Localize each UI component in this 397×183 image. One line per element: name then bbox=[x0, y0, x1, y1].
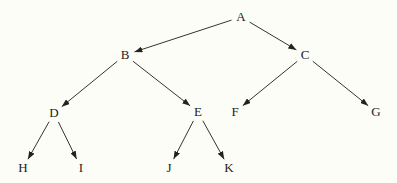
edge-d-i bbox=[58, 122, 76, 159]
node-e: E bbox=[194, 104, 202, 119]
node-h: H bbox=[18, 160, 27, 175]
edge-b-e bbox=[133, 61, 190, 106]
node-c: C bbox=[301, 47, 310, 62]
node-a: A bbox=[236, 9, 246, 24]
edge-e-k bbox=[203, 121, 224, 160]
node-i: I bbox=[79, 160, 83, 175]
node-g: G bbox=[371, 104, 380, 119]
edge-e-j bbox=[174, 121, 194, 159]
node-k: K bbox=[224, 160, 234, 175]
node-j: J bbox=[166, 160, 171, 175]
edge-d-h bbox=[28, 122, 49, 160]
node-d: D bbox=[49, 105, 58, 120]
node-b: B bbox=[121, 47, 130, 62]
tree-diagram: ABCDEFGHIJK bbox=[0, 0, 397, 183]
node-f: F bbox=[231, 104, 238, 119]
edge-c-g bbox=[313, 61, 368, 105]
edge-a-b bbox=[135, 20, 232, 52]
edge-c-f bbox=[243, 61, 297, 105]
edge-a-c bbox=[250, 22, 297, 50]
edge-b-d bbox=[62, 61, 118, 106]
tree-svg: ABCDEFGHIJK bbox=[0, 0, 397, 183]
